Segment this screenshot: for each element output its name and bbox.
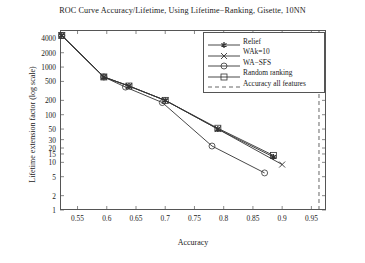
legend-label: Accuracy all features — [241, 79, 306, 88]
legend: ReliefWAk=10WA−SFSRandom rankingAccuracy… — [203, 32, 325, 93]
y-axis-tick-label: 200 — [12, 96, 56, 105]
y-axis-tick-label: 1000 — [12, 63, 56, 72]
y-axis-tick-label: 20 — [12, 144, 56, 153]
y-axis-tick-label: 50 — [12, 125, 56, 134]
legend-marker-circle-icon — [207, 57, 241, 67]
y-axis-tick-label: 4000 — [12, 34, 56, 43]
y-axis-tick-label: 5 — [12, 172, 56, 181]
legend-marker-square-icon — [207, 68, 241, 78]
y-axis-tick-label: 100 — [12, 110, 56, 119]
x-axis-tick-label: 0.9 — [278, 214, 287, 223]
y-axis-tick-label: 30 — [12, 135, 56, 144]
legend-label: WA−SFS — [241, 58, 271, 67]
legend-marker-star-icon — [207, 36, 241, 46]
x-axis-tick-label: 0.65 — [130, 214, 143, 223]
legend-item[interactable]: WAk=10 — [207, 47, 320, 58]
legend-marker-x-icon — [207, 47, 241, 57]
legend-marker-dashed-line-icon — [207, 78, 241, 88]
y-axis-tick-label: 500 — [12, 77, 56, 86]
x-axis-tick-label: 0.75 — [188, 214, 201, 223]
y-axis-tick-label: 1 — [12, 206, 56, 215]
figure: ROC Curve Accuracy/Lifetime, Using Lifet… — [0, 0, 365, 263]
legend-item[interactable]: Accuracy all features — [207, 78, 320, 89]
y-axis-tick-label: 2 — [12, 191, 56, 200]
legend-label: Relief — [241, 37, 261, 46]
legend-item[interactable]: Random ranking — [207, 68, 320, 79]
x-axis-tick-label: 0.6 — [102, 214, 111, 223]
legend-item[interactable]: Relief — [207, 36, 320, 47]
y-axis-tick-label: 2000 — [12, 48, 56, 57]
legend-item[interactable]: WA−SFS — [207, 57, 320, 68]
chart-title: ROC Curve Accuracy/Lifetime, Using Lifet… — [0, 6, 365, 15]
legend-label: WAk=10 — [241, 47, 270, 56]
x-axis-tick-label: 0.85 — [246, 214, 259, 223]
x-axis-tick-label: 0.95 — [305, 214, 318, 223]
x-axis-tick-label: 0.8 — [219, 214, 228, 223]
x-axis-label: Accuracy — [60, 238, 326, 247]
y-axis-tick-label: 10 — [12, 158, 56, 167]
legend-label: Random ranking — [241, 68, 292, 77]
x-axis-tick-label: 0.7 — [161, 214, 170, 223]
x-axis-tick-label: 0.55 — [71, 214, 84, 223]
